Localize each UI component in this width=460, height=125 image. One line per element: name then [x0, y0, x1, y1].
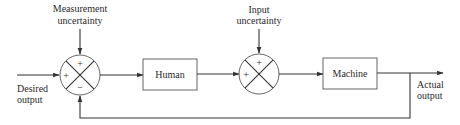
machine-block: Machine	[323, 58, 377, 89]
block-diagram: Measurement uncertainty Input uncertaint…	[0, 0, 460, 125]
measurement-uncertainty-label-2: uncertainty	[58, 15, 103, 26]
sum2-top-sign: +	[256, 57, 262, 68]
sum2-left-sign: +	[243, 69, 249, 80]
summing-junction-1: + + −	[60, 55, 100, 95]
human-block: Human	[143, 59, 197, 90]
sum1-top-sign: +	[77, 58, 83, 69]
sum1-bottom-sign: −	[77, 82, 83, 93]
input-uncertainty-label-1: Input	[248, 4, 269, 15]
desired-output-label-1: Desired	[17, 83, 48, 94]
measurement-uncertainty-label-1: Measurement	[53, 3, 108, 14]
actual-output-label-2: output	[417, 90, 443, 101]
actual-output-label-1: Actual	[417, 79, 444, 90]
machine-block-label: Machine	[333, 68, 369, 79]
summing-junction-2: + +	[239, 54, 279, 94]
desired-output-label-2: output	[17, 94, 43, 105]
sum1-left-sign: +	[63, 70, 69, 81]
human-block-label: Human	[155, 69, 184, 80]
diagram-svg: Measurement uncertainty Input uncertaint…	[0, 0, 460, 125]
input-uncertainty-label-2: uncertainty	[237, 15, 282, 26]
